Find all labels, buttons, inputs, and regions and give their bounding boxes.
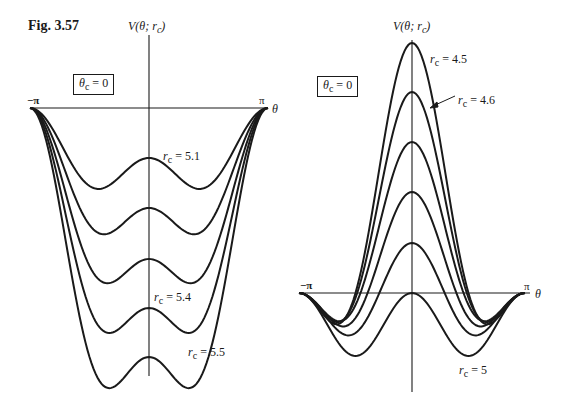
right-theta-c-box: θc = 0	[317, 76, 358, 97]
right-label-r5: rc = 5	[459, 364, 487, 379]
left-label-r51: rc = 5.1	[163, 150, 200, 165]
left-theta-c-box: θc = 0	[73, 74, 114, 95]
right-label-r45: rc = 4.5	[430, 53, 467, 68]
right-pi-tick: π	[524, 281, 530, 292]
right-y-axis-label: V(θ; rc)	[393, 20, 430, 35]
right-neg-pi-tick: −π	[300, 280, 312, 291]
right-label-r46: rc = 4.6	[458, 94, 495, 109]
left-y-axis-label: V(θ; rc)	[128, 20, 165, 35]
right-theta-label: θ	[535, 288, 541, 300]
left-neg-pi-tick: −π	[27, 95, 39, 106]
left-theta-label: θ	[272, 103, 278, 115]
left-label-r55: rc = 5.5	[188, 346, 225, 361]
left-plot-axes	[30, 35, 268, 376]
left-label-r54: rc = 5.4	[154, 291, 191, 306]
left-pi-tick: π	[259, 95, 265, 106]
figure-canvas	[0, 0, 565, 395]
